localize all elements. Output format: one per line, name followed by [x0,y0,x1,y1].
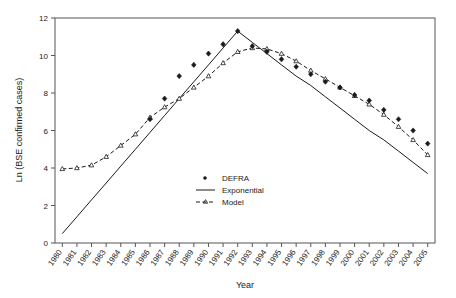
y-tick-label: 8 [44,89,49,98]
plot-area-border [55,18,435,243]
model-marker [411,138,416,142]
x-axis: 1980198119821983198419851986198719881989… [46,243,429,268]
x-tick-label: 2000 [339,248,357,268]
x-tick-label: 2004 [397,248,415,268]
x-tick-label: 1985 [119,248,137,268]
defra-marker [162,96,167,101]
legend-label-defra: DEFRA [222,174,250,183]
model-marker [104,154,109,158]
x-tick-label: 1997 [295,248,313,268]
y-tick-label: 2 [44,202,49,211]
model-marker [279,51,284,55]
x-tick-label: 1982 [76,248,94,268]
x-tick-label: 1995 [266,248,284,268]
x-tick-label: 1987 [149,248,167,268]
x-tick-label: 1989 [178,248,196,268]
legend-label-model: Model [222,198,244,207]
x-tick-label: 1993 [236,248,254,268]
defra-marker [279,57,284,62]
y-axis-label: Ln (BSE confirmed cases) [14,78,24,183]
x-tick-label: 1986 [134,248,152,268]
x-tick-label: 1991 [207,248,225,268]
x-tick-label: 2003 [383,248,401,268]
y-tick-label: 4 [44,164,49,173]
model-marker [206,74,211,78]
defra-marker [382,107,387,112]
defra-marker [411,128,416,133]
x-tick-label: 2002 [368,248,386,268]
y-tick-label: 10 [39,52,48,61]
x-tick-label: 1980 [46,248,64,268]
y-axis: 024681012 [39,14,55,248]
x-tick-label: 1984 [105,248,123,268]
x-tick-label: 1998 [309,248,327,268]
x-tick-label: 1996 [280,248,298,268]
x-tick-label: 1994 [251,248,269,268]
chart-figure: 024681012 198019811982198319841985198619… [0,0,456,298]
defra-marker [367,98,372,103]
defra-marker [177,74,182,79]
x-tick-label: 1983 [90,248,108,268]
legend-label-exponential: Exponential [222,186,264,195]
x-tick-label: 1999 [324,248,342,268]
model-marker [221,61,226,65]
x-tick-label: 1981 [61,248,79,268]
x-tick-label: 2001 [353,248,371,268]
chart-legend: DEFRA Exponential Model [196,174,264,207]
y-tick-label: 12 [39,14,48,23]
legend-marker-defra [203,176,207,180]
y-tick-label: 6 [44,127,49,136]
y-tick-label: 0 [44,239,49,248]
series-model [60,46,430,171]
x-tick-label: 1988 [163,248,181,268]
legend-marker-model [196,200,215,204]
defra-marker [206,51,211,56]
series-exponential [62,31,427,234]
exponential-line [62,31,427,234]
model-marker [192,85,197,89]
model-marker [89,163,94,167]
bse-cases-line-chart: 024681012 198019811982198319841985198619… [0,0,456,298]
x-tick-label: 1992 [222,248,240,268]
x-tick-label: 2005 [412,248,430,268]
defra-marker [396,117,401,122]
defra-marker [294,64,299,69]
x-axis-label: Year [236,280,254,290]
model-marker [396,124,401,128]
x-tick-label: 1990 [193,248,211,268]
defra-marker [192,62,197,67]
series-defra [148,29,430,147]
defra-marker [425,141,430,146]
model-line [62,48,427,169]
model-marker [162,105,167,109]
